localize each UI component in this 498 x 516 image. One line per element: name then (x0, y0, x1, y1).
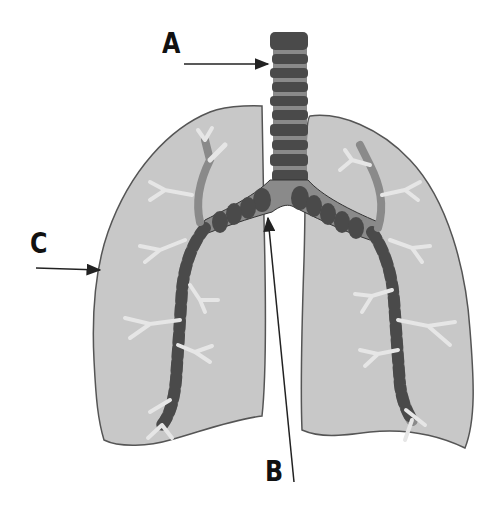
lungs-diagram: A B C (0, 0, 498, 516)
label-c: C (30, 230, 47, 258)
label-a: A (162, 30, 180, 58)
trachea (270, 32, 308, 184)
label-b: B (265, 458, 283, 486)
arrow-b (268, 218, 294, 482)
arrow-c (36, 268, 100, 270)
